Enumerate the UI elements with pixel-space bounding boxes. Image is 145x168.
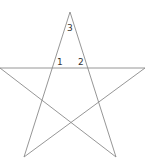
edge-right-to-bottom-left (24, 68, 145, 157)
edge-left-to-bottom-right (0, 68, 116, 157)
pentagram-diagram: 1 2 3 (0, 0, 145, 168)
angle-label-2: 2 (78, 57, 84, 67)
angle-label-1: 1 (57, 57, 63, 67)
edge-top-to-bottom-left (24, 12, 70, 157)
angle-label-3: 3 (67, 23, 73, 33)
edge-top-to-bottom-right (70, 12, 116, 157)
